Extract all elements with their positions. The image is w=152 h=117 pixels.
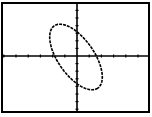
calculator-graph-screen [0,0,152,117]
graph-frame [2,3,149,112]
graph-canvas [0,0,152,117]
